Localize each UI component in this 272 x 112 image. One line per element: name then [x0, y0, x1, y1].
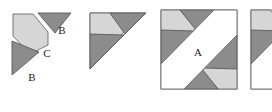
figure-square-with-band: A: [156, 0, 242, 112]
label-b-upper: B: [58, 24, 65, 36]
square-with-band-svg: A: [156, 0, 242, 112]
partial-figure-svg: [242, 0, 272, 112]
exploded-pieces-svg: B C B: [0, 0, 84, 112]
label-c: C: [43, 47, 50, 59]
diagram-canvas: B C B: [0, 0, 272, 112]
assembled-piece-b-lower: [90, 34, 124, 69]
figure-partial-clipped: [242, 0, 272, 112]
label-a: A: [194, 46, 202, 58]
figure-exploded-pieces: B C B: [0, 0, 84, 112]
label-b-lower: B: [28, 71, 35, 83]
figure-assembled-triangle: [84, 0, 156, 112]
assembled-triangle-svg: [84, 0, 156, 112]
